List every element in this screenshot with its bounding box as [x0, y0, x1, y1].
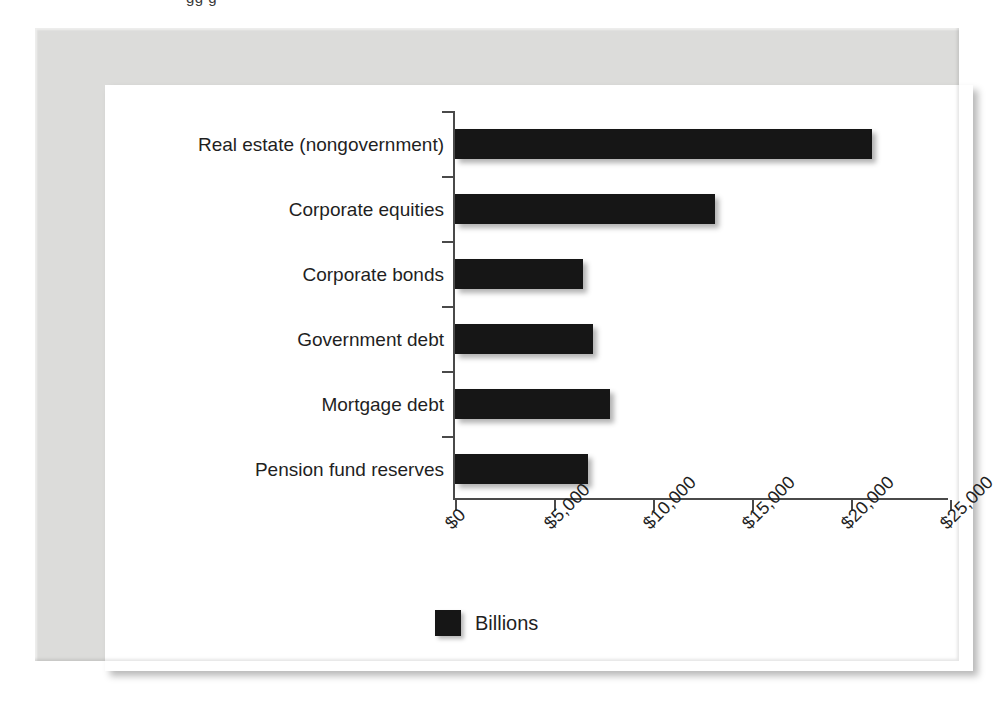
figure-frame: Real estate (nongovernment) Corporate eq…: [35, 28, 959, 661]
y-axis-tick: [442, 371, 453, 373]
chart-card: Real estate (nongovernment) Corporate eq…: [105, 85, 973, 671]
category-label-corporate-equities: Corporate equities: [289, 200, 444, 219]
category-label-real-estate: Real estate (nongovernment): [198, 135, 444, 154]
category-label-pension-fund: Pension fund reserves: [255, 460, 444, 479]
bar-government-debt: [455, 324, 593, 354]
x-tick-label-0: $0: [441, 505, 470, 534]
bar-corporate-equities: [455, 194, 715, 224]
x-tick-label-5000: $5,000: [540, 479, 595, 534]
bar-pension-fund: [455, 454, 588, 484]
clipped-caption-text: gg g: [186, 0, 217, 6]
legend-swatch-billions: [435, 610, 461, 636]
y-axis-tick: [442, 111, 453, 113]
bar-corporate-bonds: [455, 259, 583, 289]
category-label-mortgage-debt: Mortgage debt: [321, 395, 444, 414]
bar-real-estate: [455, 129, 872, 159]
category-label-corporate-bonds: Corporate bonds: [302, 265, 444, 284]
chart-legend: Billions: [435, 610, 538, 636]
x-tick-label-15000: $15,000: [738, 472, 800, 534]
legend-label-billions: Billions: [475, 612, 538, 635]
bar-mortgage-debt: [455, 389, 610, 419]
x-tick-label-25000: $25,000: [936, 472, 998, 534]
y-axis-tick: [442, 241, 453, 243]
category-label-government-debt: Government debt: [297, 330, 444, 349]
y-axis-line: [453, 111, 455, 498]
y-axis-tick: [442, 436, 453, 438]
x-tick-label-10000: $10,000: [639, 472, 701, 534]
bar-chart-plot-area: Real estate (nongovernment) Corporate eq…: [105, 85, 973, 671]
y-axis-tick: [442, 306, 453, 308]
y-axis-tick: [442, 176, 453, 178]
x-tick-label-20000: $20,000: [837, 472, 899, 534]
